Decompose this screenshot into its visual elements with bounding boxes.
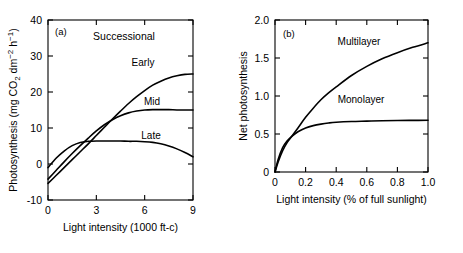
y-tick-label: 0.5 [254,128,269,140]
x-tick-label: 0.2 [298,176,313,188]
panel-label: (b) [283,28,295,39]
x-axis-title: Light intensity (1000 ft-c) [63,221,178,233]
x-tick-label: 0.4 [329,176,344,188]
curve-label-multilayer: Multilayer [338,36,381,47]
x-tick-label: 0.6 [359,176,374,188]
panel-b-plot: 00.20.40.60.81.000.51.01.52.0Light inten… [231,0,463,253]
x-tick-label: 0 [45,204,51,216]
y-axis-title: Net photosynthesis [237,51,249,140]
y-tick-label: 1.0 [254,90,269,102]
curve-label-late: Late [141,130,161,141]
x-tick-label: 1.0 [421,176,436,188]
chart-panel-a: 0369-10010203040Light intensity (1000 ft… [0,0,232,253]
series-line-late [48,141,193,168]
y-axis-title: Photosynthesis (mg CO2 dm−2 h−1) [6,28,22,191]
y-tick-label: 0 [36,158,42,170]
panel-a-plot: 0369-10010203040Light intensity (1000 ft… [0,0,232,253]
x-tick-label: 0.8 [390,176,405,188]
y-tick-label: 1.5 [254,52,269,64]
x-tick-label: 9 [190,204,196,216]
y-tick-label: 0 [263,166,269,178]
y-tick-label: -10 [27,194,42,206]
series-line-mid [48,110,193,180]
panel-label: (a) [55,26,67,37]
series-line-multilayer [275,43,428,172]
x-tick-label: 0 [272,176,278,188]
chart-panel-b: 00.20.40.60.81.000.51.01.52.0Light inten… [231,0,463,253]
y-tick-label: 20 [30,86,42,98]
y-tick-label: 30 [30,50,42,62]
x-tick-label: 3 [93,204,99,216]
y-tick-label: 10 [30,122,42,134]
x-axis-title: Light intensity (% of full sunlight) [276,193,427,205]
chart-inline-title: Successional [93,30,155,42]
figure-container: 0369-10010203040Light intensity (1000 ft… [0,0,463,253]
curve-label-mid: Mid [144,96,160,107]
curve-label-monolayer: Monolayer [338,94,385,105]
curve-label-early: Early [132,57,155,68]
series-line-early [48,74,193,183]
x-tick-label: 6 [142,204,148,216]
y-tick-label: 40 [30,14,42,26]
y-tick-label: 2.0 [254,14,269,26]
